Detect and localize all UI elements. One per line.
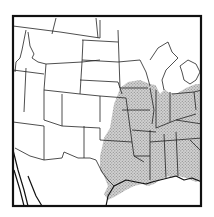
map-svg <box>0 0 214 217</box>
range-map <box>0 0 214 217</box>
